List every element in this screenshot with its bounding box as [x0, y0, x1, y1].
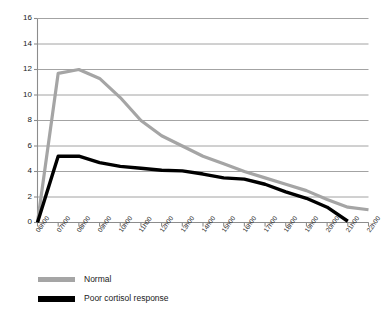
gridlines [38, 19, 369, 223]
y-axis-label-12: 12 [14, 65, 32, 73]
chart-legend: NormalPoor cortisol response [38, 270, 169, 308]
y-axis-label-6: 6 [14, 142, 32, 150]
y-axis-label-10: 10 [14, 91, 32, 99]
legend-label: Normal [84, 275, 111, 284]
cortisol-response-line-chart: 0246810121416 06h0007h0008h0009h0010h001… [0, 0, 382, 319]
legend-item-poor-cortisol-response: Poor cortisol response [38, 289, 169, 308]
legend-swatch-icon [38, 296, 75, 302]
y-axis-label-14: 14 [14, 40, 32, 48]
legend-swatch-icon [38, 277, 75, 282]
legend-label: Poor cortisol response [84, 294, 169, 303]
y-axis-label-8: 8 [14, 116, 32, 124]
y-axis-label-16: 16 [14, 14, 32, 22]
legend-item-normal: Normal [38, 270, 169, 289]
y-axis-label-4: 4 [14, 167, 32, 175]
y-axis-label-0: 0 [14, 218, 32, 226]
y-axis-label-2: 2 [14, 193, 32, 201]
